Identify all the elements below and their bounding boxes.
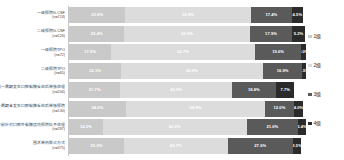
bar-segment-4: 3.4%	[298, 119, 306, 135]
bar-segment-2: 60.9%	[103, 119, 247, 135]
segment-value-label: 58.8%	[190, 106, 202, 110]
bar-segment-2: 52.9%	[125, 7, 250, 23]
y-axis-tick-5: 前一周期未发生口腔黏膜反应后单独预防 (n=130)	[0, 101, 68, 117]
bar-segment-1: 21.7%	[69, 82, 120, 98]
legend-swatch-icon	[308, 93, 312, 97]
segment-value-label: 22.1%	[89, 69, 101, 73]
segment-value-label: 24.0%	[92, 106, 104, 110]
segment-value-label: 18.8%	[248, 88, 260, 92]
segment-value-label: 4.5%	[293, 13, 303, 17]
category-sample-size: (n=526)	[52, 34, 65, 38]
legend-swatch-icon	[308, 122, 312, 126]
y-axis-tick-4: 前一周期发生口腔黏膜反应后单独处理 (n=206)	[0, 82, 68, 98]
segment-value-label: 27.6%	[254, 144, 266, 148]
y-axis-tick-0: 一级预防G-CSF (n=724)	[0, 7, 68, 23]
bar-row: 22.1% 60.0% 16.9% 1.5%	[69, 63, 306, 79]
legend-label: 3级	[314, 92, 322, 97]
bar-segment-3: 21.6%	[247, 119, 298, 135]
bar-segment-4: 5.2%	[292, 26, 304, 42]
legend-label: 1级	[314, 34, 322, 39]
bar-segment-2: 60.7%	[111, 44, 255, 60]
segment-value-label: 5.2%	[294, 32, 304, 36]
legend-swatch-icon	[308, 35, 312, 39]
bars-container: 23.8% 52.9% 17.4% 4.5% 23.4% 52.9% 17.9%…	[68, 6, 306, 156]
bar-row: 23.8% 52.9% 17.4% 4.5%	[69, 7, 306, 23]
bar-row: 24.0% 58.8% 12.0% 4.0%	[69, 101, 306, 117]
segment-value-label: 4.0%	[294, 106, 303, 110]
category-sample-size: (n=724)	[52, 15, 65, 19]
segment-value-label: 23.8%	[91, 13, 103, 17]
bar-row: 23.4% 52.9% 17.9% 5.2%	[69, 26, 306, 42]
segment-value-label: 52.9%	[182, 13, 194, 17]
segment-value-label: 7.7%	[280, 88, 290, 92]
y-axis-tick-7: 围术单药联合方式 (n=375)	[0, 138, 68, 154]
bar-segment-1: 23.2%	[69, 138, 124, 154]
bar-segment-2: 46.9%	[120, 82, 231, 98]
category-sample-size: (n=375)	[52, 146, 65, 150]
bar-segment-4: 7.7%	[276, 82, 294, 98]
segment-value-label: 3.5%	[293, 144, 301, 148]
segment-value-label: 17.9%	[84, 50, 96, 54]
bar-row: 17.9% 60.7% 19.6% 2.0%	[69, 44, 306, 60]
segment-value-label: 60.0%	[186, 69, 198, 73]
segment-value-label: 21.6%	[266, 125, 278, 129]
category-sample-size: (n=206)	[52, 90, 65, 94]
plot-area: 一级预防G-CSF (n=724) 二级预防G-CSF (n=526) 一级预防…	[0, 6, 306, 156]
legend-item-1[interactable]: 1级	[308, 33, 321, 41]
legend-label: 2级	[314, 63, 322, 68]
bar-segment-1: 23.4%	[69, 26, 124, 42]
segment-value-label: 19.6%	[272, 50, 284, 54]
y-axis-category-labels: 一级预防G-CSF (n=724) 二级预防G-CSF (n=526) 一级预防…	[0, 6, 68, 156]
bar-segment-4: 3.5%	[293, 138, 301, 154]
bar-segment-3: 18.8%	[232, 82, 277, 98]
bar-segment-2: 52.9%	[124, 26, 249, 42]
category-sample-size: (n=65)	[54, 71, 65, 75]
bar-segment-1: 17.9%	[69, 44, 111, 60]
bar-segment-4: 4.5%	[292, 7, 303, 23]
y-axis-tick-1: 二级预防G-CSF (n=526)	[0, 26, 68, 42]
bar-segment-3: 17.4%	[251, 7, 292, 23]
category-sample-size: (n=287)	[52, 127, 65, 131]
bar-segment-2: 58.8%	[126, 101, 265, 117]
segment-value-label: 14.2%	[80, 125, 92, 129]
segment-value-label: 23.4%	[91, 32, 103, 36]
bar-row: 21.7% 46.9% 18.8% 7.7%	[69, 82, 306, 98]
bar-segment-1: 14.2%	[69, 119, 103, 135]
legend-item-3[interactable]: 3级	[308, 91, 321, 99]
segment-value-label: 21.7%	[89, 88, 101, 92]
segment-value-label: 3.4%	[298, 125, 306, 129]
category-sample-size: (n=72)	[54, 53, 65, 57]
y-axis-tick-2: 一级预防TPO (n=72)	[0, 44, 68, 60]
legend-label: 4级	[314, 121, 322, 126]
bar-segment-2: 60.0%	[121, 63, 263, 79]
bar-segment-3: 19.6%	[255, 44, 301, 60]
stacked-bar-chart: 一级预防G-CSF (n=724) 二级预防G-CSF (n=526) 一级预防…	[0, 0, 344, 160]
bar-segment-4: 4.0%	[294, 101, 303, 117]
category-sample-size: (n=130)	[52, 109, 65, 113]
bar-segment-2: 43.7%	[124, 138, 228, 154]
segment-value-label: 43.7%	[170, 144, 182, 148]
bar-segment-3: 16.9%	[263, 63, 303, 79]
y-axis-tick-6: 化疗前针对口腔外黏膜损伤预防给予处理 (n=287)	[0, 119, 68, 135]
bar-segment-1: 24.0%	[69, 101, 126, 117]
y-axis-tick-3: 二级预防TPO (n=65)	[0, 63, 68, 79]
segment-value-label: 16.9%	[277, 69, 289, 73]
bar-segment-1: 23.8%	[69, 7, 125, 23]
segment-value-label: 46.9%	[170, 88, 182, 92]
segment-value-label: 52.9%	[181, 32, 193, 36]
legend-swatch-icon	[308, 64, 312, 68]
segment-value-label: 60.7%	[177, 50, 189, 54]
segment-value-label: 12.0%	[274, 106, 286, 110]
bar-segment-3: 17.9%	[250, 26, 292, 42]
segment-value-label: 17.4%	[265, 13, 277, 17]
legend-item-4[interactable]: 4级	[308, 120, 321, 128]
bar-segment-3: 27.6%	[228, 138, 293, 154]
bar-segment-3: 12.0%	[265, 101, 293, 117]
bar-row: 14.2% 60.9% 21.6% 3.4%	[69, 119, 306, 135]
segment-value-label: 17.9%	[265, 32, 277, 36]
legend-item-2[interactable]: 2级	[308, 62, 321, 70]
segment-value-label: 23.2%	[91, 144, 103, 148]
bar-row: 23.2% 43.7% 27.6% 3.5%	[69, 138, 306, 154]
segment-value-label: 60.9%	[169, 125, 181, 129]
chart-legend: 1级 2级 3级 4级	[306, 8, 342, 152]
